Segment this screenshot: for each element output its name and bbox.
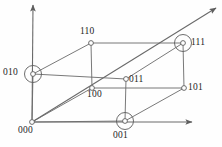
oblique-axis — [32, 8, 216, 122]
vertex-label-011: 011 — [129, 75, 144, 85]
cube-edge-010-110 — [33, 43, 91, 74]
vertex-node-110[interactable] — [89, 41, 94, 46]
vertex-dots-group — [30, 41, 187, 125]
vertex-node-101[interactable] — [182, 86, 187, 91]
cube-edge-001-011 — [125, 79, 126, 121]
vertex-node-001[interactable] — [123, 119, 128, 124]
binary-cube-figure: 000001010011100101110111 — [0, 0, 222, 147]
vertex-label-000: 000 — [18, 126, 33, 136]
vertex-label-100: 100 — [87, 90, 102, 100]
axes-group — [32, 5, 216, 122]
vertex-label-111: 111 — [191, 38, 205, 48]
vertex-label-101: 101 — [188, 83, 203, 93]
cube-edge-001-101 — [125, 88, 184, 121]
cube-edge-000-100 — [32, 88, 92, 122]
cube-edges-group — [32, 43, 184, 122]
vertex-label-001: 001 — [113, 131, 128, 141]
vertex-node-010[interactable] — [31, 72, 36, 77]
cube-edge-100-110 — [91, 43, 92, 88]
cube-edge-101-111 — [183, 43, 184, 88]
vertex-label-110: 110 — [80, 27, 95, 37]
vertex-label-010: 010 — [3, 68, 18, 78]
vertex-node-111[interactable] — [181, 41, 186, 46]
cube-edge-010-011 — [33, 74, 126, 79]
cube-drawing-canvas — [0, 0, 222, 147]
vertex-node-011[interactable] — [124, 77, 129, 82]
highlight-rings-group — [25, 35, 192, 130]
vertex-node-000[interactable] — [30, 120, 35, 125]
